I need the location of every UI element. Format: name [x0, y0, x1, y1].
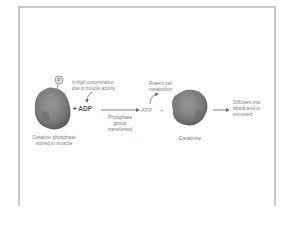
atp-note-line1: Powers cell [149, 81, 172, 87]
creatinine-molecule-icon [172, 90, 207, 126]
adp-note-arrow [87, 92, 92, 102]
creatine-phosphate-label: Creatine phosphate stored in muscle [26, 134, 82, 146]
phosphate-circle-icon: P [55, 76, 63, 90]
transfer-label: Phosphate group transferred [100, 114, 140, 132]
atp-note: Powers cell metabolism [149, 81, 172, 92]
atp-note-arrow [150, 94, 158, 104]
adp-note-line1: In high concentration [72, 80, 115, 86]
creatine-phosphate-label-line2: stored in muscle [26, 140, 82, 146]
adp-label: + ADP [73, 106, 92, 112]
creatine-phosphate-molecule-icon [35, 88, 71, 130]
adp-note-line2: due to muscle activity [72, 86, 115, 92]
excretion-label: Diffuses into blood and is excreted [233, 99, 260, 117]
excretion-label-line3: excreted [233, 111, 260, 117]
atp-note-line2: metabolism [149, 87, 172, 93]
atp-label: ATP [141, 107, 152, 113]
adp-note: In high concentration due to muscle acti… [72, 80, 115, 91]
plus-sign: + [160, 107, 164, 113]
transfer-label-line3: transferred [100, 126, 140, 132]
creatinine-label: Creatinine [170, 135, 210, 141]
